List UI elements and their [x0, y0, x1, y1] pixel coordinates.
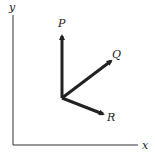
- vector-r-label: R: [106, 111, 115, 124]
- vector-diagram: y x P Q R: [0, 0, 155, 160]
- vector-r-arrow: [62, 98, 103, 114]
- vector-q-label: Q: [112, 48, 121, 61]
- diagram-canvas: y x P Q R: [0, 0, 155, 160]
- vector-p-label: P: [57, 17, 66, 30]
- y-axis-label: y: [8, 1, 16, 14]
- vector-q-arrow: [62, 61, 111, 98]
- x-axis-label: x: [142, 139, 149, 152]
